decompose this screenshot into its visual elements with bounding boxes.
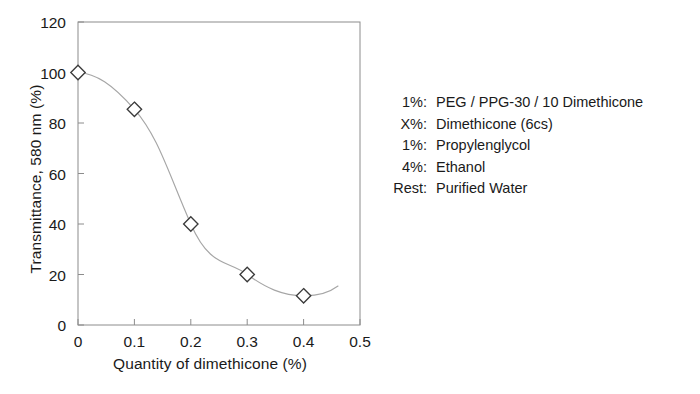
annotation-key: 1%: [383, 92, 436, 114]
annotation-row: 1%: PEG / PPG-30 / 10 Dimethicone [383, 92, 643, 114]
annotation-value: PEG / PPG-30 / 10 Dimethicone [436, 92, 643, 114]
annotation-key: X%: [383, 114, 436, 136]
annotation-value: Ethanol [436, 157, 485, 179]
annotation-row: Rest: Purified Water [383, 178, 643, 200]
formulation-annotation: 1%: PEG / PPG-30 / 10 Dimethicone X%: Di… [383, 92, 643, 200]
annotation-key: 4%: [383, 157, 436, 179]
x-tick-label: 0.4 [274, 334, 334, 350]
y-tick-label: 120 [14, 15, 66, 31]
x-tick-label: 0.1 [104, 334, 164, 350]
y-axis-title: Transmittance, 580 nm (%) [27, 39, 45, 319]
x-tick-label: 0.5 [330, 334, 390, 350]
annotation-key: 1%: [383, 135, 436, 157]
axes-frame [78, 22, 360, 325]
y-tick-label: 0 [14, 318, 66, 334]
annotation-value: Purified Water [436, 178, 527, 200]
x-axis-title: Quantity of dimethicone (%) [60, 355, 360, 373]
plot-frame-rect [78, 22, 360, 325]
chart-plot-region: 120 100 80 60 40 20 0 0 0.1 0.2 0.3 0.4 … [0, 0, 380, 394]
x-tick-label: 0 [48, 334, 108, 350]
annotation-value: Dimethicone (6cs) [436, 114, 553, 136]
x-tick-label: 0.2 [161, 334, 221, 350]
x-tick-label: 0.3 [217, 334, 277, 350]
annotation-row: 1%: Propylenglycol [383, 135, 643, 157]
annotation-row: X%: Dimethicone (6cs) [383, 114, 643, 136]
figure-container: 120 100 80 60 40 20 0 0 0.1 0.2 0.3 0.4 … [0, 0, 700, 394]
annotation-row: 4%: Ethanol [383, 157, 643, 179]
annotation-value: Propylenglycol [436, 135, 530, 157]
annotation-key: Rest: [383, 178, 436, 200]
